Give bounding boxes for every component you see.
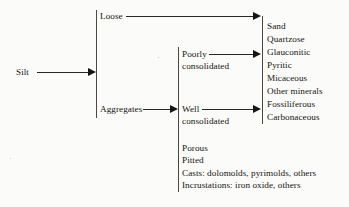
node-poorly-line2: consolidated	[182, 61, 229, 71]
node-loose: Loose	[100, 11, 123, 21]
connector-loose-to-trunk3	[126, 16, 257, 17]
silt-classification-diagram: Silt Loose Aggregates Poorly consolidate…	[0, 0, 349, 207]
leaf-glauconitic: Glauconitic	[267, 47, 310, 57]
connector-aggregates-to-trunk2	[143, 109, 173, 110]
connector-silt-to-trunk1	[37, 72, 92, 73]
arrowhead-silt	[88, 68, 96, 76]
leaf-micaceous: Micaceous	[267, 73, 307, 83]
node-well-line2: consolidated	[182, 116, 229, 126]
node-well: Well	[182, 104, 199, 114]
trunk-bar-level3	[262, 16, 263, 124]
leaf-quartzose: Quartzose	[267, 34, 305, 44]
trunk-bar-level2	[178, 47, 179, 192]
node-aggregates: Aggregates	[100, 104, 142, 114]
leaf-sand: Sand	[267, 21, 286, 31]
leaf-other-minerals: Other minerals	[267, 86, 323, 96]
node-silt: Silt	[16, 67, 29, 77]
note-porous: Porous	[182, 143, 208, 153]
trunk-bar-level1	[96, 10, 97, 118]
note-casts: Casts: dolomolds, pyrimolds, others	[182, 168, 316, 178]
arrowhead-poorly	[253, 50, 261, 58]
leaf-fossiliferous: Fossiliferous	[267, 99, 315, 109]
arrowhead-loose	[253, 12, 261, 20]
scan-speck	[10, 158, 11, 159]
scan-speck	[158, 57, 159, 58]
connector-poorly-to-trunk3	[209, 54, 257, 55]
arrowhead-aggregates	[170, 105, 178, 113]
leaf-carbonaceous: Carbonaceous	[267, 112, 320, 122]
connector-well-to-trunk3	[202, 109, 257, 110]
note-pitted: Pitted	[182, 155, 204, 165]
node-poorly: Poorly	[182, 49, 207, 59]
note-incrustations: Incrustations: iron oxide, others	[182, 180, 301, 190]
arrowhead-well	[253, 105, 261, 113]
leaf-pyritic: Pyritic	[267, 60, 292, 70]
